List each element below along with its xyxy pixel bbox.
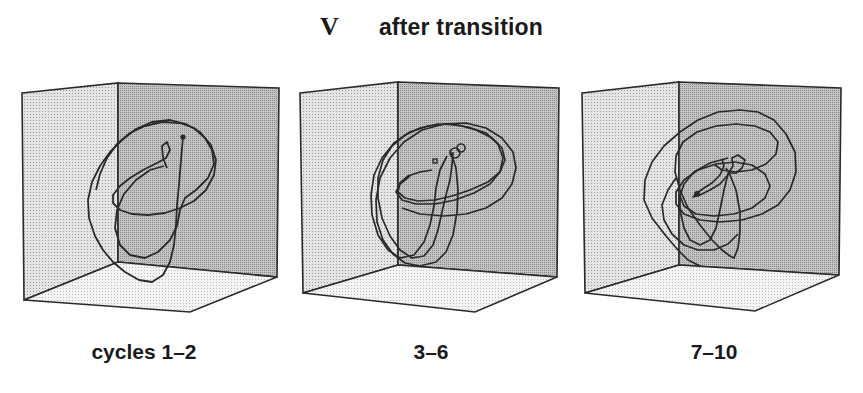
back-wall — [398, 82, 559, 277]
left-wall — [300, 82, 398, 293]
caption-panel-2: 3–6 — [331, 340, 531, 364]
panel-3-cube — [582, 82, 841, 311]
start-point-marker — [180, 134, 185, 139]
back-wall — [679, 82, 841, 275]
left-wall — [582, 82, 679, 293]
phase-space-figure — [0, 0, 863, 393]
caption-panel-3: 7–10 — [614, 340, 814, 364]
panel-1-cube — [22, 83, 279, 312]
end-point-marker — [694, 191, 700, 197]
caption-panel-1: cycles 1–2 — [44, 340, 244, 364]
back-wall — [118, 83, 279, 277]
panel-2-cube — [300, 82, 559, 312]
